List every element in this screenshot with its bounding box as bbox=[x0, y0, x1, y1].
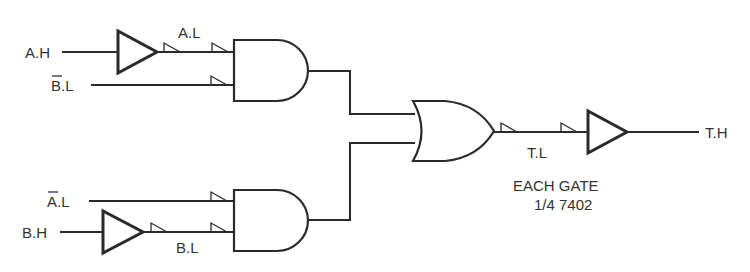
polarity-indicator-icon bbox=[561, 123, 577, 132]
label-t-h: T.H bbox=[705, 124, 728, 141]
polarity-indicator-icon bbox=[211, 192, 227, 201]
label-t-l: T.L bbox=[527, 144, 547, 161]
polarity-indicator-icon bbox=[212, 43, 228, 52]
wire-and2-to-or bbox=[308, 143, 415, 220]
polarity-indicator-icon bbox=[164, 43, 180, 52]
label-b-l: B.L bbox=[176, 239, 199, 256]
polarity-indicator-icon bbox=[211, 76, 227, 85]
label-abar-l: A.L bbox=[47, 193, 70, 210]
label-b-h: B.H bbox=[22, 224, 47, 241]
or-gate bbox=[413, 101, 494, 161]
and-gate-1 bbox=[234, 40, 308, 101]
buffer-b bbox=[103, 211, 143, 253]
buffer-a bbox=[118, 31, 157, 73]
polarity-indicator-icon bbox=[501, 123, 517, 132]
logic-diagram: A.H A.L B.L A.L B.H B.L T.L T.H EACH GAT… bbox=[0, 0, 750, 272]
polarity-indicator-icon bbox=[211, 223, 227, 232]
wire-and1-to-or bbox=[308, 71, 415, 114]
polarity-indicator-icon bbox=[151, 223, 167, 232]
and-gate-2 bbox=[234, 190, 308, 251]
buffer-t bbox=[588, 111, 627, 153]
label-a-l: A.L bbox=[178, 24, 201, 41]
note-line-2: 1/4 7402 bbox=[534, 196, 592, 213]
label-bbar-l: B.L bbox=[51, 77, 74, 94]
note-line-1: EACH GATE bbox=[513, 177, 599, 194]
label-a-h: A.H bbox=[25, 44, 50, 61]
